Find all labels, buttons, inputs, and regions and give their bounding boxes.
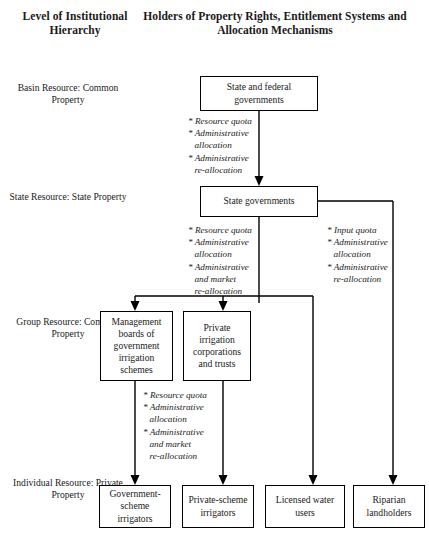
mechanism-line: re-allocation [188, 285, 252, 297]
arrowhead-management-boards [131, 301, 140, 311]
mechanism-line: * Input quota [327, 224, 388, 236]
mechanism-line: * Administrative [327, 236, 388, 248]
node-management-boards[interactable]: Management boards of government irrigati… [100, 311, 173, 381]
arrowhead-licensed-water-users [309, 475, 318, 485]
node-private-scheme-irrigators[interactable]: Private-scheme irrigators [182, 485, 254, 528]
mechanisms-state-to-individual-right: * Input quota* Administrativeallocation*… [327, 224, 388, 285]
mechanism-line: * Administrative [143, 426, 207, 438]
mechanism-line: allocation [327, 248, 388, 260]
mechanism-line: re-allocation [143, 450, 207, 462]
mechanism-line: allocation [188, 248, 252, 260]
mechanism-line: allocation [188, 139, 252, 151]
diagram-canvas: Level of Institutional Hierarchy Holders… [0, 0, 429, 535]
mechanism-line: * Administrative [188, 127, 252, 139]
node-riparian-landholders[interactable]: Riparian landholders [353, 485, 425, 528]
node-private-irrigation[interactable]: Private irrigation corporations and trus… [183, 311, 251, 381]
node-licensed-water-users[interactable]: Licensed water users [265, 485, 345, 528]
arrowhead-government-scheme-irrigators [131, 475, 140, 485]
mechanism-line: * Resource quota [188, 224, 252, 236]
node-state-governments[interactable]: State governments [200, 186, 318, 217]
arrowhead-riparian-landholders [389, 475, 398, 485]
arrowhead-private-scheme-irrigators [219, 475, 228, 485]
mechanism-line: re-allocation [188, 164, 252, 176]
left-column-header: Level of Institutional Hierarchy [10, 10, 140, 37]
mechanisms-state-to-group: * Resource quota* Administrativeallocati… [188, 224, 252, 297]
mechanisms-basin-to-state: * Resource quota* Administrativeallocati… [188, 115, 252, 176]
arrowhead-state-governments [255, 176, 264, 186]
arrowhead-private-irrigation [219, 301, 228, 311]
mechanism-line: and market [188, 273, 252, 285]
node-state-federal-governments[interactable]: State and federal governments [200, 76, 318, 111]
mechanism-line: * Administrative [188, 261, 252, 273]
mechanism-line: * Administrative [143, 401, 207, 413]
mechanism-line: * Administrative [327, 261, 388, 273]
tier-label-basin: Basin Resource: Common Property [8, 82, 128, 107]
mechanism-line: allocation [143, 413, 207, 425]
main-column-header: Holders of Property Rights, Entitlement … [130, 10, 420, 37]
mechanism-line: * Administrative [188, 152, 252, 164]
mechanism-line: re-allocation [327, 273, 388, 285]
mechanism-line: * Resource quota [188, 115, 252, 127]
mechanism-line: and market [143, 438, 207, 450]
mechanism-line: * Administrative [188, 236, 252, 248]
mechanisms-group-to-individual: * Resource quota* Administrativeallocati… [143, 389, 207, 462]
mechanism-line: * Resource quota [143, 389, 207, 401]
node-government-scheme-irrigators[interactable]: Government-scheme irrigators [99, 485, 171, 528]
tier-label-state: State Resource: State Property [8, 191, 128, 203]
